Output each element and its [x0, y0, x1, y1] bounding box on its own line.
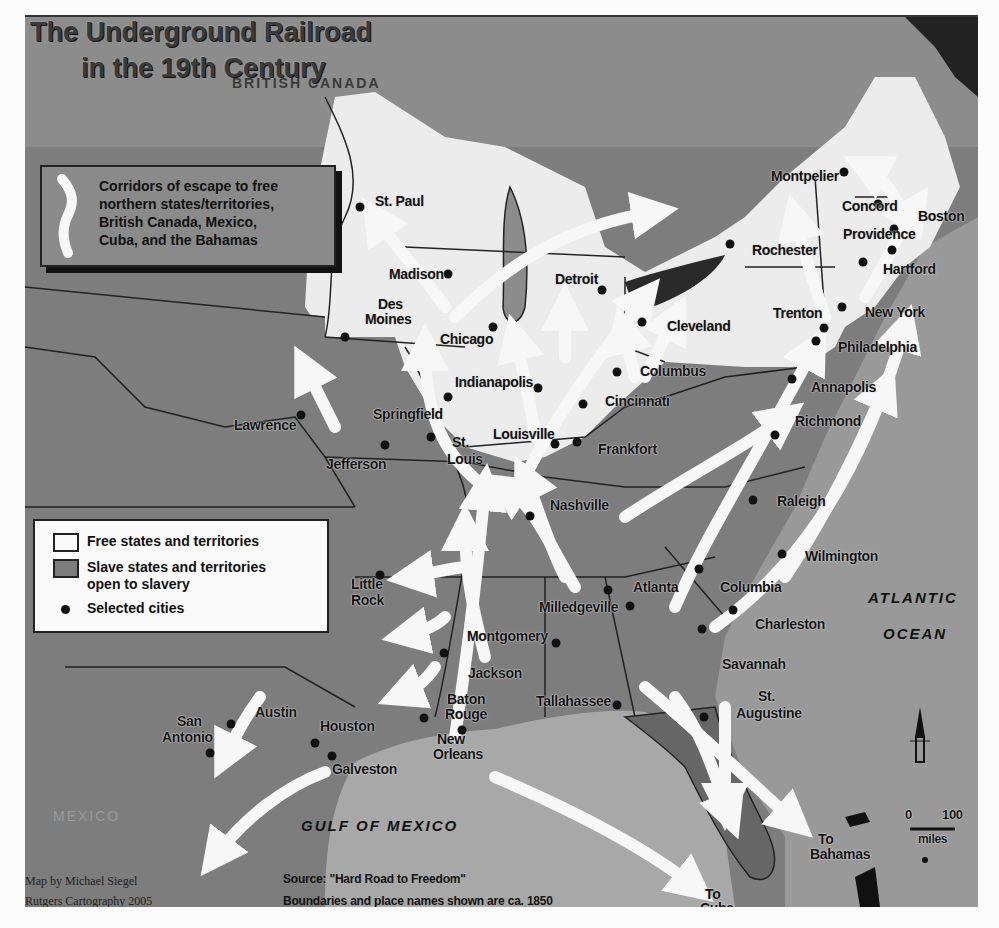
- city-dot: [771, 431, 780, 440]
- city-indianapolis: Indianapolis: [455, 375, 533, 390]
- city-dot: [381, 441, 390, 450]
- city-dot: [604, 586, 613, 595]
- map-canvas: [25, 17, 978, 907]
- label-gulf-of-mexico: GULF OF MEXICO: [301, 817, 458, 834]
- city-chicago: Chicago: [440, 332, 493, 347]
- city-little-rock-1: Little: [351, 577, 383, 592]
- city-dot: [573, 438, 582, 447]
- source-line2: Boundaries and place names shown are ca.…: [283, 894, 553, 907]
- city-frankfort: Frankfort: [598, 442, 657, 457]
- city-des-moines-1: Des: [378, 297, 403, 312]
- city-st-louis-2: Louis: [447, 452, 483, 467]
- city-tallahassee: Tallahassee: [536, 694, 611, 709]
- city-columbia: Columbia: [720, 580, 781, 595]
- city-madison: Madison: [389, 267, 444, 282]
- city-dot: [729, 606, 738, 615]
- city-st-louis-1: St.: [452, 435, 469, 450]
- legend-line: Corridors of escape to free: [99, 177, 278, 195]
- city-jackson: Jackson: [468, 666, 522, 681]
- legend-escape-routes: Corridors of escape to free northern sta…: [40, 165, 336, 267]
- label-british-canada: BRITISH CANADA: [232, 75, 381, 91]
- city-dot: [227, 720, 236, 729]
- route-louisiana: [400, 667, 435, 695]
- route-arkansas: [405, 617, 445, 635]
- city-dot: [341, 333, 350, 342]
- city-new-orleans-1: New: [437, 732, 465, 747]
- city-des-moines-2: Moines: [365, 312, 411, 327]
- city-providence: Providence: [843, 227, 915, 242]
- city-dot: [749, 496, 758, 505]
- city-cleveland: Cleveland: [667, 319, 730, 334]
- legend-states: Free states and territories Slave states…: [33, 519, 329, 633]
- city-houston: Houston: [320, 719, 375, 734]
- city-richmond: Richmond: [795, 414, 861, 429]
- city-raleigh: Raleigh: [777, 494, 825, 509]
- city-st-paul: St. Paul: [375, 194, 424, 209]
- free-states-swatch: [53, 533, 79, 552]
- slave-states-swatch: [53, 559, 79, 578]
- label-atlantic: ATLANTIC: [868, 589, 958, 606]
- city-st-augustine-2: Augustine: [736, 706, 802, 721]
- legend-free: Free states and territories: [87, 533, 259, 550]
- city-detroit: Detroit: [555, 272, 598, 287]
- city-hartford: Hartford: [883, 262, 936, 277]
- dest-cuba-2: Cuba: [700, 901, 734, 907]
- legend-line: northern states/territories,: [99, 195, 278, 213]
- city-baton-rouge-2: Rouge: [445, 707, 487, 722]
- credit-author: Map by Michael Siegel: [25, 874, 137, 889]
- city-austin: Austin: [255, 705, 297, 720]
- city-charleston: Charleston: [755, 617, 825, 632]
- dest-bahamas-1: To: [818, 832, 833, 847]
- city-dot: [698, 625, 707, 634]
- city-dot: [726, 240, 735, 249]
- city-san-antonio-2: Antonio: [162, 730, 213, 745]
- city-louisville: Louisville: [493, 427, 555, 442]
- city-galveston: Galveston: [332, 762, 397, 777]
- city-cincinnati: Cincinnati: [605, 394, 670, 409]
- city-dot: [534, 384, 543, 393]
- city-st-augustine-1: St.: [758, 689, 775, 704]
- city-concord: Concord: [842, 199, 897, 214]
- city-milledgeville: Milledgeville: [539, 600, 618, 615]
- city-dot: [420, 714, 429, 723]
- city-dot: [311, 739, 320, 748]
- dest-bahamas-2: Bahamas: [810, 847, 870, 862]
- city-rochester: Rochester: [752, 243, 818, 258]
- city-philadelphia: Philadelphia: [838, 340, 917, 355]
- city-dot: [206, 749, 215, 758]
- city-dot-icon: [61, 605, 70, 614]
- scale-end: 100: [942, 807, 963, 822]
- city-nashville: Nashville: [550, 498, 609, 513]
- city-dot: [859, 258, 868, 267]
- city-dot: [888, 246, 897, 255]
- city-new-orleans-2: Orleans: [433, 747, 483, 762]
- city-dot: [778, 550, 787, 559]
- city-dot: [579, 400, 588, 409]
- city-trenton: Trenton: [773, 306, 822, 321]
- city-wilmington: Wilmington: [805, 549, 878, 564]
- city-dot: [838, 303, 847, 312]
- legend-line: British Canada, Mexico,: [99, 213, 278, 231]
- scale-start: 0: [905, 807, 912, 822]
- city-dot: [440, 649, 449, 658]
- city-new-york: New York: [865, 305, 925, 320]
- city-baton-rouge-1: Baton: [447, 692, 485, 707]
- city-dot: [626, 602, 635, 611]
- city-dot: [700, 713, 709, 722]
- legend-slave-line1: Slave states and territories: [87, 559, 266, 576]
- city-annapolis: Annapolis: [811, 380, 876, 395]
- underground-railroad-map: The Underground Railroad in the 19th Cen…: [25, 15, 978, 907]
- city-dot: [552, 639, 561, 648]
- city-columbus: Columbus: [640, 364, 706, 379]
- credit-org: Rutgers Cartography 2005: [25, 894, 152, 907]
- city-dot: [427, 433, 436, 442]
- city-dot: [613, 368, 622, 377]
- city-dot: [638, 318, 647, 327]
- city-boston: Boston: [918, 209, 964, 224]
- scale-unit: miles: [918, 832, 947, 847]
- city-atlanta: Atlanta: [633, 580, 678, 595]
- route-atlanta-virginia: [625, 417, 785, 517]
- city-dot: [526, 512, 535, 521]
- label-mexico: MEXICO: [53, 808, 120, 824]
- legend-cities: Selected cities: [87, 600, 184, 617]
